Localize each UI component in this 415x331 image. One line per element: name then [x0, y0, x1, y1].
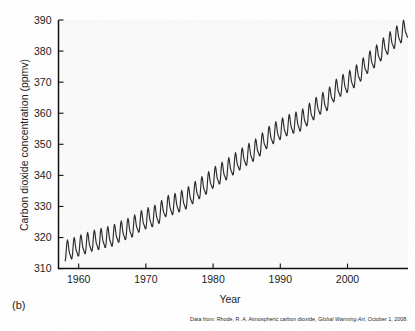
y-tick-label: 340 — [34, 169, 52, 181]
source-note-prefix: Data from: Rhode, R. A. Atmospheric carb… — [190, 316, 318, 322]
y-tick-label: 370 — [34, 76, 52, 88]
x-tick-label: 2000 — [336, 273, 360, 285]
y-axis-title: Carbon dioxide concentration (ppmv) — [18, 59, 30, 231]
y-tick-label: 320 — [34, 231, 52, 243]
x-tick-label: 1990 — [269, 273, 293, 285]
panel-label: (b) — [12, 299, 25, 311]
y-tick-label: 390 — [34, 14, 52, 26]
source-note: Data from: Rhode, R. A. Atmospheric carb… — [190, 316, 408, 322]
y-tick-label: 310 — [34, 262, 52, 274]
y-tick-label: 380 — [34, 45, 52, 57]
x-tick-label: 1970 — [134, 273, 158, 285]
source-note-italic: Global Warming Art — [318, 316, 365, 322]
co2-figure: 310320330340350360370380390 196019701980… — [0, 0, 415, 331]
co2-chart: 310320330340350360370380390 196019701980… — [0, 0, 415, 331]
y-tick-labels: 310320330340350360370380390 — [34, 14, 52, 275]
x-tick-label: 1960 — [67, 273, 91, 285]
y-tick-label: 350 — [34, 138, 52, 150]
y-axis: 310320330340350360370380390 — [34, 14, 64, 275]
y-tick-label: 330 — [34, 200, 52, 212]
y-tick-label: 360 — [34, 107, 52, 119]
x-axis-title: Year — [219, 293, 241, 305]
source-note-suffix: , October 1, 2008. — [365, 316, 408, 322]
x-tick-label: 1980 — [201, 273, 225, 285]
